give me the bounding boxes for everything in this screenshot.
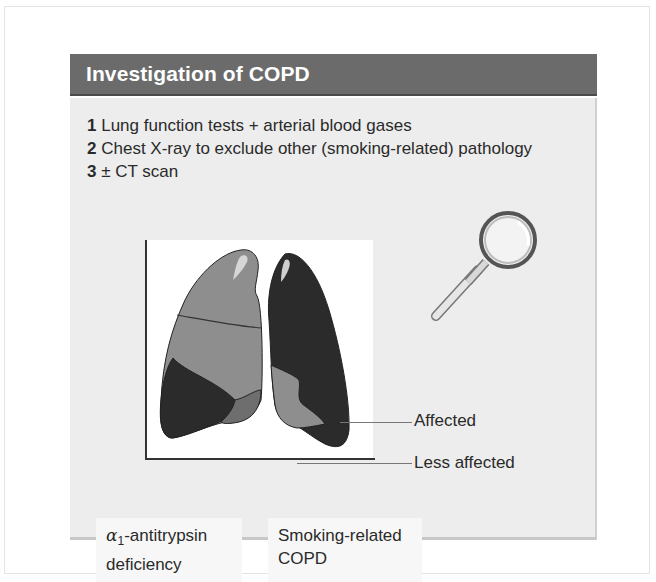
steps-list: 1 Lung function tests + arterial blood g… <box>87 114 532 183</box>
magnifying-glass-icon <box>420 208 540 323</box>
step-number: 2 <box>87 139 96 158</box>
step-text: Lung function tests + arterial blood gas… <box>101 116 411 135</box>
caption-smoking-line2: COPD <box>278 547 412 570</box>
image-axis-left <box>145 240 147 460</box>
step-text: ± CT scan <box>101 162 178 181</box>
step-item: 2 Chest X-ray to exclude other (smoking-… <box>87 137 532 160</box>
caption-alpha1-line2: deficiency <box>106 553 232 576</box>
step-item: 1 Lung function tests + arterial blood g… <box>87 114 532 137</box>
step-text: Chest X-ray to exclude other (smoking-re… <box>101 139 532 158</box>
step-number: 3 <box>87 162 96 181</box>
copd-panel: Investigation of COPD 1 Lung function te… <box>70 54 597 540</box>
step-item: 3 ± CT scan <box>87 160 532 183</box>
callout-less-affected: Less affected <box>414 453 515 473</box>
panel-header: Investigation of COPD <box>70 54 597 96</box>
panel-title: Investigation of COPD <box>86 62 310 86</box>
caption-alpha1-line1: α1-antitrypsin <box>106 524 232 553</box>
leader-line-less-affected <box>297 463 412 464</box>
callout-affected: Affected <box>414 411 476 431</box>
caption-smoking-line1: Smoking-related <box>278 524 412 547</box>
caption-alpha1: α1-antitrypsin deficiency <box>96 518 242 582</box>
lungs-illustration-icon <box>145 240 373 458</box>
left-lung <box>160 250 262 438</box>
step-number: 1 <box>87 116 96 135</box>
image-axis-bottom <box>145 458 375 460</box>
right-lung <box>268 253 349 446</box>
panel-body: 1 Lung function tests + arterial blood g… <box>70 98 597 540</box>
caption-smoking: Smoking-related COPD <box>268 518 422 582</box>
leader-line-affected <box>340 422 412 423</box>
